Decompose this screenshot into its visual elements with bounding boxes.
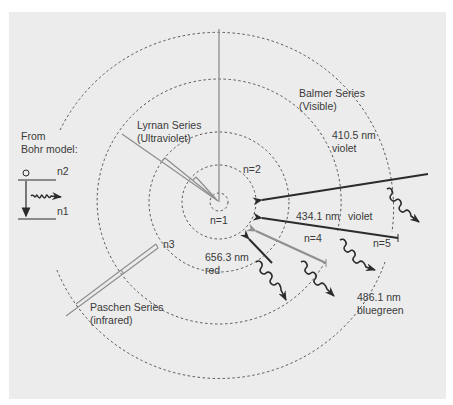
balmer-series-label: Balmer Series: [299, 87, 365, 100]
lyman-lines: [122, 29, 219, 202]
legend-photon: [31, 195, 61, 198]
diagram-canvas: From Bohr model: n2 n1 Lyrnan Series (Ul…: [0, 0, 453, 405]
level-n5-label: n=5: [373, 237, 391, 250]
color-410nm: violet: [332, 142, 357, 155]
level-n1-label: n=1: [210, 214, 228, 227]
bohr-legend: [18, 170, 61, 219]
photon-656nm: [256, 261, 286, 300]
lyman-series-band: (Ultraviolet): [137, 132, 191, 145]
paschen-series-label: Paschen Series: [90, 301, 164, 314]
paschen-series-band: (infrared): [90, 314, 133, 327]
electron-icon: [23, 170, 29, 176]
color-656nm: red: [205, 264, 220, 277]
legend-lower-level: n1: [57, 205, 69, 218]
lyman-series-label: Lyrnan Series: [137, 119, 201, 132]
level-n4-label: n=4: [304, 232, 322, 245]
balmer-series-band: (Visible): [299, 100, 337, 113]
arrow-656nm: [249, 239, 272, 263]
color-486nm: bluegreen: [357, 304, 404, 317]
photon-waves: [256, 188, 419, 300]
wavelength-486nm: 486.1 nm: [357, 291, 401, 304]
color-434nm: violet: [348, 210, 373, 223]
level-n2-label: n=2: [243, 163, 261, 176]
legend-title-line2: Bohr model:: [21, 143, 78, 156]
photon-486nm: [301, 261, 334, 296]
legend-title-line1: From: [21, 130, 46, 143]
wavelength-434nm: 434.1 nm: [296, 210, 340, 223]
orbit-diagram: [0, 0, 453, 405]
level-n3-label: n3: [163, 238, 175, 251]
legend-upper-level: n2: [57, 165, 69, 178]
photon-434nm: [340, 239, 375, 270]
arrow-410nm: [262, 174, 428, 200]
wavelength-410nm: 410.5 nm: [332, 129, 376, 142]
wavelength-656nm: 656.3 nm: [205, 251, 249, 264]
photon-410nm: [387, 188, 419, 222]
